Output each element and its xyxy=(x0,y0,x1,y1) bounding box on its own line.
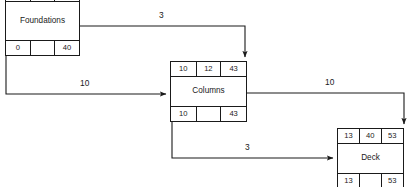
node-foundations[interactable]: 0 40 40 Foundations 0 40 xyxy=(5,0,80,56)
edge-columns-to-deck-left xyxy=(172,122,333,158)
deck-top-row: 13 40 53 xyxy=(338,129,403,144)
columns-early-start: 10 xyxy=(171,62,197,76)
deck-duration: 40 xyxy=(360,129,381,143)
deck-early-start: 13 xyxy=(338,129,360,143)
columns-late-finish: 43 xyxy=(221,107,246,121)
edge-label-foundations-to-columns-top: 3 xyxy=(159,11,164,19)
foundations-late-finish: 40 xyxy=(55,41,79,55)
columns-slack xyxy=(197,107,222,121)
foundations-bottom-row: 0 40 xyxy=(6,40,79,55)
columns-label: Columns xyxy=(171,77,246,106)
edge-foundations-to-columns-top xyxy=(80,26,245,57)
columns-bottom-row: 10 43 xyxy=(171,106,246,121)
node-columns[interactable]: 10 12 43 Columns 10 43 xyxy=(170,61,247,122)
deck-label: Deck xyxy=(338,144,403,173)
foundations-early-start: 0 xyxy=(6,0,31,1)
network-diagram-canvas: 0 40 40 Foundations 0 40 10 12 43 Column… xyxy=(0,0,412,187)
edge-label-columns-to-deck-left: 3 xyxy=(245,143,250,151)
columns-early-finish: 43 xyxy=(221,62,246,76)
deck-slack xyxy=(360,174,381,187)
deck-late-start: 13 xyxy=(338,174,360,187)
edge-foundations-to-columns-left xyxy=(6,56,166,94)
foundations-late-start: 0 xyxy=(6,41,31,55)
foundations-label: Foundations xyxy=(6,2,79,40)
foundations-slack xyxy=(31,41,55,55)
columns-duration: 12 xyxy=(197,62,222,76)
columns-late-start: 10 xyxy=(171,107,197,121)
deck-bottom-row: 13 53 xyxy=(338,173,403,187)
deck-late-finish: 53 xyxy=(382,174,403,187)
edge-label-columns-to-deck-top: 10 xyxy=(325,78,334,86)
deck-early-finish: 53 xyxy=(382,129,403,143)
edge-label-foundations-to-columns-left: 10 xyxy=(80,79,89,87)
foundations-duration: 40 xyxy=(31,0,55,1)
columns-top-row: 10 12 43 xyxy=(171,62,246,77)
edge-columns-to-deck-top xyxy=(247,93,404,124)
foundations-early-finish: 40 xyxy=(55,0,79,1)
node-deck[interactable]: 13 40 53 Deck 13 53 xyxy=(337,128,404,187)
